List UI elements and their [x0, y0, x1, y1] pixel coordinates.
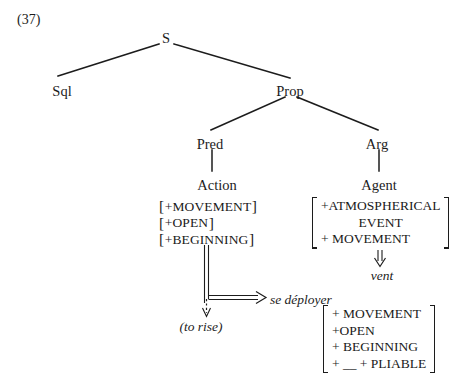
feature-row: + BEGINNING [332, 339, 426, 356]
branch-prop-arg [297, 97, 378, 130]
open-bracket: [ [159, 214, 164, 231]
dashed-down-arrow [203, 299, 211, 317]
feature-row: EVENT [321, 215, 440, 232]
tree-node-pred: Pred [197, 137, 224, 152]
english-gloss: (to rise) [179, 320, 222, 334]
tree-node-action: Action [197, 178, 236, 193]
action-feature-matrix: [+MOVEMENT] [+OPEN] [+BEGINNING] [159, 198, 257, 248]
feature-row: + MOVEMENT [332, 306, 426, 323]
open-bracket: [ [159, 230, 164, 247]
matrix-body: +ATMOSPHERICAL EVENT + MOVEMENT [319, 197, 442, 249]
tree-node-prop: Prop [276, 84, 303, 99]
feature-text: +BEGINNING [165, 232, 249, 247]
close-bracket: ] [249, 230, 254, 247]
branch-prop-pred [211, 97, 285, 130]
double-line-elbow [205, 245, 259, 303]
feature-row: +OPEN [332, 323, 426, 340]
matrix-left-bracket [323, 305, 330, 373]
matrix-body: + MOVEMENT +OPEN + BEGINNING + __ + PLIA… [330, 305, 428, 373]
feature-row: + MOVEMENT [321, 231, 440, 248]
feature-row: [+BEGINNING] [159, 231, 257, 248]
double-down-arrow-agent [375, 250, 386, 267]
feature-row: +ATMOSPHERICAL [321, 198, 440, 215]
tree-node-agent: Agent [361, 178, 396, 193]
linguistic-tree-figure: (37) [0, 0, 473, 387]
result-feature-matrix: + MOVEMENT +OPEN + BEGINNING + __ + PLIA… [323, 305, 435, 373]
matrix-left-bracket [312, 197, 319, 249]
agent-feature-matrix: +ATMOSPHERICAL EVENT + MOVEMENT [312, 197, 449, 249]
close-bracket: ] [209, 214, 214, 231]
feature-row: [+OPEN] [159, 215, 257, 232]
close-bracket: ] [252, 197, 257, 214]
branch-s-sql [58, 44, 159, 76]
matrix-right-bracket [428, 305, 435, 373]
tree-node-s: S [162, 31, 170, 46]
tree-node-sql: Sql [52, 84, 71, 99]
tree-node-arg: Arg [366, 137, 388, 152]
matrix-right-bracket [442, 197, 449, 249]
double-arrow-head-right [256, 292, 266, 304]
feature-row: + __ + PLIABLE [332, 356, 426, 373]
feature-text: +OPEN [165, 215, 208, 230]
feature-row: [+MOVEMENT] [159, 198, 257, 215]
agent-realization-word: vent [371, 269, 394, 283]
branch-s-prop [174, 44, 290, 78]
open-bracket: [ [159, 197, 164, 214]
feature-text: +MOVEMENT [165, 199, 252, 214]
